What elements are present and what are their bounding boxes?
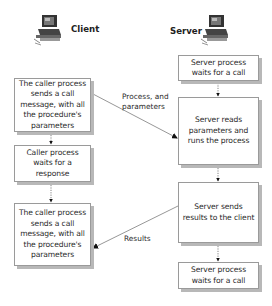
call-message-label: Process, and parameters xyxy=(122,92,169,111)
client-step-send-call: The caller process sends a call message,… xyxy=(14,78,91,132)
client-step-wait-response: Caller process waits for a response xyxy=(14,145,91,182)
server-step-text: Server process waits for a call xyxy=(182,58,255,79)
client-step-send-call-again: The caller process sends a call message,… xyxy=(14,203,91,266)
call-message-label-line1: Process, and xyxy=(122,92,169,102)
client-step-text: The caller process sends a call message,… xyxy=(18,79,87,131)
call-message-label-line2: parameters xyxy=(122,102,169,112)
server-computer-icon xyxy=(199,14,229,46)
client-computer-icon xyxy=(32,14,62,46)
client-step-text: The caller process sends a call message,… xyxy=(18,208,87,260)
client-heading: Client xyxy=(71,24,99,34)
server-step-wait-call: Server process waits for a call xyxy=(178,55,259,81)
client-step-text: Caller process waits for a response xyxy=(18,148,87,179)
server-step-wait-call-again: Server process waits for a call xyxy=(178,262,259,289)
results-message-label: Results xyxy=(124,234,151,244)
server-step-run-process: Server reads parameters and runs the pro… xyxy=(178,97,259,165)
server-step-text: Server process waits for a call xyxy=(182,265,255,286)
server-heading: Server xyxy=(170,26,202,36)
server-step-send-results: Server sends results to the client xyxy=(178,182,259,243)
server-step-text: Server reads parameters and runs the pro… xyxy=(182,115,255,146)
server-step-text: Server sends results to the client xyxy=(182,202,255,223)
